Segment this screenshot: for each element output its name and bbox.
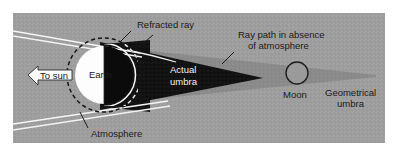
- label-earth: Earth: [89, 69, 112, 80]
- label-to-sun: To sun: [40, 70, 68, 81]
- label-refracted-ray: Refracted ray: [137, 19, 194, 30]
- eclipse-diagram: To sun Earth Atmosphere Refracted ray Ac…: [0, 0, 399, 155]
- label-actual-umbra-line2: umbra: [170, 76, 198, 87]
- label-atmosphere: Atmosphere: [91, 128, 142, 139]
- label-ray-path-line2: of atmosphere: [248, 40, 309, 51]
- label-ray-path-line1: Ray path in absence: [238, 29, 325, 40]
- label-actual-umbra-line1: Actual: [170, 64, 196, 75]
- moon-circle: [286, 62, 308, 84]
- label-geometrical-umbra-line1: Geometrical: [325, 87, 376, 98]
- figure-container: To sun Earth Atmosphere Refracted ray Ac…: [0, 0, 399, 155]
- label-moon: Moon: [283, 89, 307, 100]
- label-geometrical-umbra-line2: umbra: [337, 98, 365, 109]
